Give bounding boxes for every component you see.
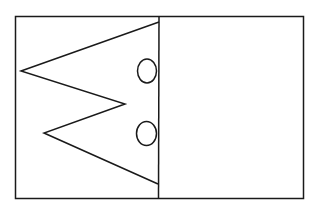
zigzag-line: [21, 22, 159, 184]
diagram-canvas: [0, 0, 314, 217]
lower-oval: [137, 122, 157, 146]
vertical-divider: [159, 17, 160, 199]
upper-oval: [138, 59, 157, 83]
